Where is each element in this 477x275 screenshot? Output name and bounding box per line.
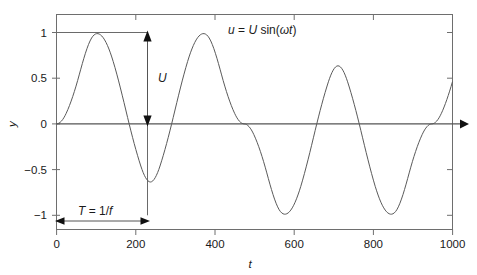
zero-axis-arrow-icon bbox=[460, 119, 469, 128]
x-tick-label: 0 bbox=[53, 238, 59, 250]
y-tick-label: 0.5 bbox=[31, 72, 47, 84]
y-tick-label: −0.5 bbox=[24, 164, 47, 176]
x-tick-label: 200 bbox=[126, 238, 145, 250]
amplitude-arrow bbox=[143, 31, 151, 127]
period-label: T = 1/f bbox=[78, 204, 114, 218]
chart-canvas: U T = 1/f u = U sin(ωt) 1 0.5 0 −0.5 −1 … bbox=[0, 0, 477, 275]
sine-wave-figure: U T = 1/f u = U sin(ωt) 1 0.5 0 −0.5 −1 … bbox=[0, 0, 477, 275]
y-tick-label: 0 bbox=[41, 118, 47, 130]
x-tick-label: 400 bbox=[205, 238, 224, 250]
y-axis-title: y bbox=[6, 120, 18, 128]
x-tick-label: 800 bbox=[364, 238, 383, 250]
amplitude-label: U bbox=[158, 71, 167, 85]
equation-label: u = U sin(ωt) bbox=[228, 23, 296, 37]
x-axis-title: t bbox=[248, 258, 252, 270]
y-tick-label: 1 bbox=[41, 27, 47, 39]
x-tick-label: 600 bbox=[285, 238, 304, 250]
y-tick-label: −1 bbox=[34, 209, 47, 221]
x-axis-ticks bbox=[57, 230, 453, 236]
x-axis-ticks-top bbox=[136, 15, 374, 21]
plot-frame bbox=[57, 15, 453, 230]
period-arrow bbox=[55, 217, 150, 224]
x-tick-labels: 0 200 400 600 800 1000 bbox=[53, 238, 465, 250]
y-tick-labels: 1 0.5 0 −0.5 −1 bbox=[24, 27, 47, 222]
x-tick-label: 1000 bbox=[440, 238, 466, 250]
